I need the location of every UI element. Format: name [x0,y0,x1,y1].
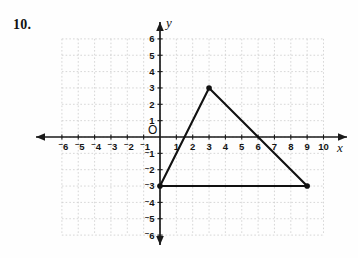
y-tick-label: 6 [149,33,154,44]
x-tick-label: –4 [91,139,101,151]
y-tick-label: –5 [145,212,155,224]
x-axis-label: x [336,140,343,155]
coordinate-plane: –6–5–4–3–2–112345678910 654321–1–2–3–4–5… [0,0,358,258]
y-tick-label: –2 [145,163,155,175]
y-tick-label: 5 [149,50,155,61]
x-tick-label: 8 [288,141,293,152]
x-tick-label: –6 [59,139,69,151]
y-axis-arrow-down [156,236,164,245]
y-tick-label: 2 [149,99,154,110]
vertex-point [206,85,212,91]
y-tick-label: –6 [145,228,155,240]
x-tick-label: 10 [318,141,329,152]
y-tick-label: –1 [145,147,155,159]
vertex-point [304,183,310,189]
vertex-point [157,183,163,189]
y-axis-label: y [164,15,172,30]
x-tick-label: 2 [190,141,195,152]
y-tick-label: 4 [149,66,155,77]
x-tick-label: 3 [206,141,211,152]
y-tick-label: –4 [145,196,155,208]
x-tick-label: –2 [124,139,134,151]
x-tick-label: –5 [75,139,85,151]
y-tick-label: 3 [149,82,154,93]
y-tick-label: –3 [145,179,155,191]
x-tick-label: –3 [108,139,118,151]
x-tick-label: 5 [239,141,245,152]
x-tick-label: 6 [255,141,260,152]
worksheet-page: 10. –6–5–4–3–2–112345678910 654321–1–2–3… [0,0,358,258]
y-axis-arrow-up [156,22,164,31]
x-axis-tick-labels: –6–5–4–3–2–112345678910 [59,139,329,151]
x-axis-arrow-left [36,133,45,141]
x-tick-label: 9 [305,141,310,152]
coordinate-plane-svg: –6–5–4–3–2–112345678910 654321–1–2–3–4–5… [0,0,358,258]
x-tick-label: 7 [272,141,277,152]
x-tick-label: 4 [223,141,229,152]
origin-label: O [148,123,157,137]
